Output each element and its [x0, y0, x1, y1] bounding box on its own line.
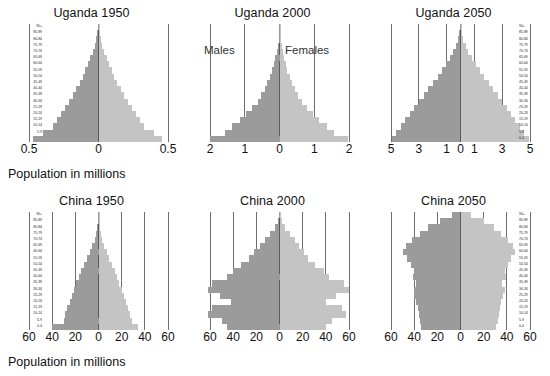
bar-female [99, 111, 137, 117]
bar-female [280, 130, 335, 136]
bar-female [461, 280, 503, 286]
bar-row [0, 99, 183, 105]
bar-male [406, 243, 460, 249]
age-axis-labels: 0-45-910-1415-1920-2425-2930-3435-3940-4… [519, 24, 545, 142]
bar-row [0, 305, 183, 311]
bar-row [362, 111, 545, 117]
bar-female [280, 231, 290, 237]
bar-row [362, 80, 545, 86]
panel-title: Uganda 2050 [362, 6, 545, 20]
age-group-label: 15-19 [519, 306, 528, 310]
bar-row [362, 99, 545, 105]
bar-row [0, 80, 183, 86]
bar-row [181, 67, 364, 73]
bar-group [181, 212, 364, 330]
bar-row [0, 123, 183, 129]
bar-male [220, 293, 279, 299]
bar-male [265, 86, 280, 92]
bar-male [65, 105, 98, 111]
bar-female [461, 49, 469, 55]
bar-female [280, 123, 327, 129]
panel-uganda-2000: Uganda 2000 Males Females 21012 [181, 0, 364, 188]
bar-row [181, 92, 364, 98]
bar-male [80, 80, 99, 86]
bar-male [452, 212, 460, 218]
bar-row [0, 111, 183, 117]
age-group-label: 85-89 [519, 31, 528, 35]
males-label: Males [204, 44, 235, 56]
bar-row [362, 49, 545, 55]
bar-row [0, 105, 183, 111]
bar-female [280, 111, 313, 117]
bar-male [410, 111, 461, 117]
panel-china-1950: China 1950 0-45-910-1415-1920-2425-2930-… [0, 188, 183, 376]
bar-female [461, 231, 502, 237]
bar-male [413, 274, 460, 280]
bar-male [61, 111, 99, 117]
bar-male [87, 255, 99, 261]
bar-row [362, 36, 545, 42]
age-group-label: 75-79 [519, 44, 528, 48]
panel-china-2000: China 2000 6040200204060 [181, 188, 364, 376]
bar-row [0, 311, 183, 317]
bar-female [461, 130, 525, 136]
axis-caption-bottom: Population in millions [8, 355, 125, 369]
bar-male [76, 280, 98, 286]
bar-female [461, 55, 472, 61]
bar-male [405, 117, 460, 123]
bar-female [461, 67, 480, 73]
bar-female [99, 99, 128, 105]
bar-male [70, 299, 99, 305]
bar-row [181, 30, 364, 36]
bar-row [181, 212, 364, 218]
axis-caption-top: Population in millions [8, 167, 125, 181]
bar-row [0, 24, 183, 30]
bar-group [0, 212, 183, 330]
x-tick-label: 20 [69, 330, 82, 344]
age-group-label: 45-49 [519, 269, 528, 273]
bar-male [81, 268, 98, 274]
x-tick-label: 0 [95, 330, 102, 344]
bar-female [280, 262, 316, 268]
bar-female [280, 49, 283, 55]
bar-male [57, 117, 99, 123]
age-group-label: 40-44 [519, 87, 528, 91]
bar-row [0, 92, 183, 98]
bar-female [280, 117, 320, 123]
bar-female [99, 105, 132, 111]
bar-row [362, 293, 545, 299]
bar-male [225, 130, 280, 136]
bar-row [181, 287, 364, 293]
bar-female [280, 74, 290, 80]
bar-female [99, 92, 125, 98]
age-axis-labels: 0-45-910-1415-1920-2425-2930-3435-3940-4… [519, 212, 545, 330]
bar-female [99, 130, 155, 136]
bar-male [72, 293, 99, 299]
bar-row [362, 268, 545, 274]
bar-group [362, 24, 545, 142]
bar-female [99, 74, 115, 80]
plot-area [181, 24, 364, 142]
bar-female [280, 55, 285, 61]
bar-row [0, 280, 183, 286]
bar-female [99, 36, 101, 42]
bar-row [362, 311, 545, 317]
age-group-label: 80-84 [519, 38, 528, 42]
bar-row [181, 237, 364, 243]
bar-row [362, 130, 545, 136]
bar-male [65, 311, 99, 317]
panel-title: China 2050 [362, 194, 545, 208]
bar-female [461, 224, 495, 230]
bar-row [0, 67, 183, 73]
bar-female [461, 61, 476, 67]
bar-row [181, 318, 364, 324]
bar-row [0, 224, 183, 230]
x-tick-label: 0 [276, 330, 283, 344]
bar-row [181, 280, 364, 286]
age-group-label: 90+ [519, 25, 525, 29]
bar-row [362, 123, 545, 129]
bar-row [181, 274, 364, 280]
bar-male [424, 92, 461, 98]
x-tick-label: 40 [319, 330, 332, 344]
bar-male [258, 99, 280, 105]
